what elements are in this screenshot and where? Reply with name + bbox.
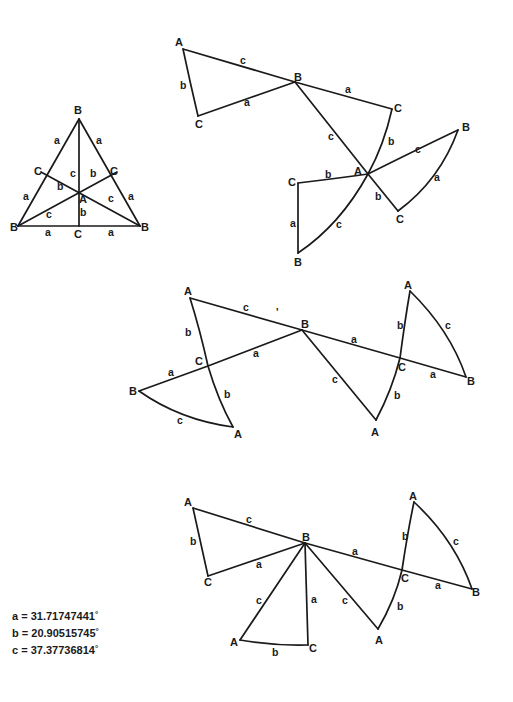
arc-edge	[398, 130, 458, 211]
side-label: b	[388, 135, 394, 147]
arc-edge	[302, 330, 376, 420]
side-label: c	[445, 319, 451, 331]
arc-edge	[183, 49, 295, 82]
arc-edge	[298, 174, 368, 253]
side-label: a	[311, 593, 317, 605]
side-label: a	[108, 226, 114, 238]
side-label: a	[168, 366, 174, 378]
value-b: b = 20.90515745°	[12, 625, 99, 642]
side-label: c	[453, 535, 459, 547]
side-label: a	[128, 190, 134, 202]
side-label: b	[325, 168, 331, 180]
arc-edge	[305, 543, 378, 629]
side-label: a	[351, 333, 357, 345]
vertex-label: C	[110, 165, 118, 177]
arc-edge	[240, 640, 308, 645]
vertex-label: A	[79, 193, 87, 205]
vertex-label: C	[74, 228, 82, 240]
side-label: c	[177, 414, 183, 426]
vertex-label: C	[288, 176, 296, 188]
arc-edge	[305, 543, 308, 645]
arc-edge	[295, 82, 368, 174]
vertex-label: B	[74, 104, 82, 116]
vertex-label: B	[462, 121, 470, 133]
side-label: c	[70, 167, 76, 179]
vertex-label: A	[184, 496, 192, 508]
side-label: c	[332, 373, 338, 385]
side-label: a	[435, 579, 441, 591]
side-values-legend: a = 31.71747441° b = 20.90515745° c = 37…	[12, 608, 99, 659]
side-label: a	[45, 226, 51, 238]
vertex-label: B	[129, 385, 137, 397]
stray-mark: '	[276, 306, 279, 318]
side-label: c	[240, 54, 246, 66]
vertex-label: B	[141, 221, 149, 233]
side-label: b	[402, 530, 408, 542]
side-label: c	[256, 594, 262, 606]
side-label: c	[415, 143, 421, 155]
arc-edge	[368, 174, 398, 211]
vertex-label: C	[34, 165, 42, 177]
side-label: a	[430, 368, 436, 380]
side-label: b	[394, 389, 400, 401]
side-label: a	[256, 558, 262, 570]
pinwheel-top: ABCCBACCBcbaacbcbabac	[175, 36, 470, 268]
side-label: a	[23, 190, 29, 202]
strip-bottom: ABACCBACAcbabcaacacbb	[184, 490, 480, 658]
value-a: a = 31.71747441°	[12, 608, 99, 625]
side-label: b	[80, 206, 86, 218]
vertex-label: C	[204, 576, 212, 588]
arc-edge	[295, 82, 392, 109]
side-label: b	[397, 600, 403, 612]
arc-edge	[368, 130, 458, 174]
vertex-label: A	[409, 490, 417, 502]
vertex-label: C	[195, 355, 203, 367]
vertex-label: C	[309, 642, 317, 654]
side-label: a	[253, 347, 259, 359]
vertex-label: C	[394, 102, 402, 114]
equilateral-triangle: BCCABCBaacbbacacbaa	[10, 104, 149, 240]
vertex-label: A	[371, 426, 379, 438]
vertex-label: A	[230, 636, 238, 648]
side-label: b	[224, 388, 230, 400]
value-c: c = 37.37736814°	[12, 642, 99, 659]
side-label: a	[54, 134, 60, 146]
vertex-label: B	[472, 586, 480, 598]
vertex-label: C	[195, 118, 203, 130]
side-label: b	[272, 646, 278, 658]
vertex-label: B	[467, 375, 475, 387]
side-label: c	[46, 208, 52, 220]
strip-middle: ABACCBBAAcbabcaaacbbc	[129, 279, 475, 440]
vertex-label: C	[396, 213, 404, 225]
side-label: a	[352, 545, 358, 557]
vertex-label: B	[10, 221, 18, 233]
side-label: c	[336, 218, 342, 230]
side-label: b	[90, 167, 96, 179]
side-label: a	[290, 217, 296, 229]
vertex-label: A	[354, 165, 362, 177]
side-label: c	[342, 594, 348, 606]
side-label: b	[375, 190, 381, 202]
side-label: b	[397, 319, 403, 331]
side-label: c	[108, 192, 114, 204]
vertex-label: A	[175, 36, 183, 48]
side-label: c	[328, 130, 334, 142]
vertex-label: A	[404, 279, 412, 291]
side-label: a	[434, 171, 440, 183]
side-label: a	[244, 96, 250, 108]
vertex-label: A	[375, 634, 383, 646]
vertex-label: A	[184, 285, 192, 297]
side-label: c	[246, 513, 252, 525]
side-label: a	[345, 83, 351, 95]
vertex-label: B	[301, 318, 309, 330]
side-label: c	[243, 301, 249, 313]
vertex-label: B	[294, 256, 302, 268]
vertex-label: B	[302, 531, 310, 543]
side-label: b	[190, 535, 196, 547]
vertex-label: A	[234, 428, 242, 440]
vertex-label: B	[294, 71, 302, 83]
vertex-label: C	[398, 361, 406, 373]
vertex-label: C	[401, 572, 409, 584]
side-label: b	[57, 180, 63, 192]
side-label: a	[96, 134, 102, 146]
